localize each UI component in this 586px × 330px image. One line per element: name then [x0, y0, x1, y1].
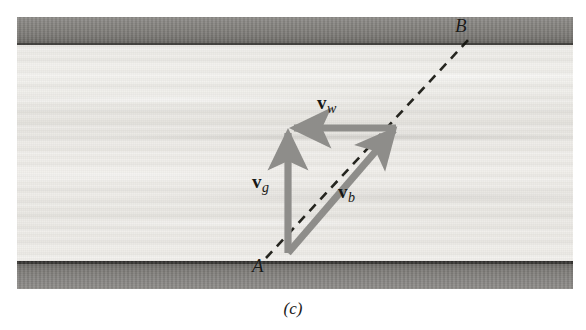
vector-label-vg-symbol: v — [252, 171, 262, 192]
point-label-b: B — [455, 16, 467, 35]
vector-label-vb-subscript: b — [348, 190, 355, 205]
point-label-a: A — [252, 256, 264, 275]
vector-label-vg-subscript: g — [262, 180, 269, 195]
near-bank-texture — [17, 261, 573, 289]
river-scene — [17, 17, 573, 289]
figure-root: A B vw vg vb (c) — [0, 0, 586, 330]
vector-label-vb: vb — [338, 182, 355, 205]
figure-caption: (c) — [0, 299, 586, 319]
water-surface — [17, 17, 573, 289]
vector-label-vw-subscript: w — [327, 101, 336, 116]
vector-label-vb-symbol: v — [338, 181, 348, 202]
near-bank — [17, 261, 573, 289]
vector-label-vw: vw — [317, 93, 336, 116]
far-bank — [17, 17, 573, 45]
vector-label-vw-symbol: v — [317, 92, 327, 113]
far-bank-texture — [17, 17, 573, 45]
vector-label-vg: vg — [252, 172, 269, 195]
